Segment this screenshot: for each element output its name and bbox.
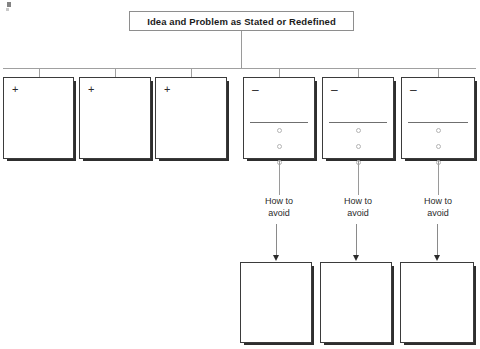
connector-bus-horizontal [3, 68, 476, 69]
connector-drop-column-4 [279, 68, 280, 77]
plus-sign-icon: + [12, 84, 18, 95]
plus-sign-icon: + [164, 84, 170, 95]
connector-card-to-label-6 [438, 160, 439, 195]
minus-sign-icon: – [331, 85, 338, 96]
bullet-marker-icon [436, 144, 441, 149]
scan-artifact-speck-secondary [6, 8, 9, 11]
diagram-canvas: Idea and Problem as Stated or Redefined … [0, 0, 480, 349]
connector-card-to-label-4 [279, 160, 280, 195]
bullet-marker-icon [277, 144, 282, 149]
how-to-avoid-label-5: How toavoid [322, 196, 394, 219]
connector-drop-column-6 [438, 68, 439, 77]
bullet-marker-icon [356, 128, 361, 133]
arrow-stem-1 [276, 224, 277, 256]
diagram-title-text: Idea and Problem as Stated or Redefined [147, 16, 336, 27]
arrow-head-icon-1 [273, 255, 279, 261]
scan-artifact-speck [7, 2, 11, 7]
avoidance-card-3[interactable] [400, 262, 474, 343]
bullet-marker-icon [277, 128, 282, 133]
plus-sign-icon: + [88, 84, 94, 95]
how-to-avoid-line1: How to [322, 196, 394, 208]
how-to-avoid-line1: How to [243, 196, 315, 208]
diagram-title-box: Idea and Problem as Stated or Redefined [129, 11, 354, 31]
factor-card-plus-1[interactable]: + [3, 77, 74, 159]
title-connector-stem [241, 31, 242, 69]
how-to-avoid-line2: avoid [322, 208, 394, 220]
card-divider-rule [250, 122, 308, 123]
connector-drop-column-3 [191, 68, 192, 77]
card-divider-rule [408, 122, 468, 123]
how-to-avoid-line1: How to [402, 196, 474, 208]
how-to-avoid-line2: avoid [243, 208, 315, 220]
minus-sign-icon: – [410, 85, 417, 96]
how-to-avoid-label-4: How toavoid [243, 196, 315, 219]
connector-drop-column-5 [358, 68, 359, 77]
arrow-stem-2 [356, 224, 357, 256]
avoidance-card-2[interactable] [320, 262, 392, 343]
arrow-head-icon-3 [434, 255, 440, 261]
factor-card-plus-3[interactable]: + [155, 77, 227, 159]
bullet-marker-icon [356, 144, 361, 149]
factor-card-plus-2[interactable]: + [79, 77, 151, 159]
connector-card-to-label-5 [358, 160, 359, 195]
minus-sign-icon: – [252, 85, 259, 96]
factor-card-minus-5[interactable]: – [322, 77, 394, 159]
factor-card-minus-4[interactable]: – [243, 77, 315, 159]
bullet-marker-icon [436, 128, 441, 133]
how-to-avoid-label-6: How toavoid [402, 196, 474, 219]
connector-drop-column-1 [39, 68, 40, 77]
connector-drop-column-2 [115, 68, 116, 77]
avoidance-card-1[interactable] [240, 262, 312, 343]
card-divider-rule [329, 122, 387, 123]
how-to-avoid-line2: avoid [402, 208, 474, 220]
arrow-stem-3 [437, 224, 438, 256]
factor-card-minus-6[interactable]: – [401, 77, 475, 159]
arrow-head-icon-2 [353, 255, 359, 261]
